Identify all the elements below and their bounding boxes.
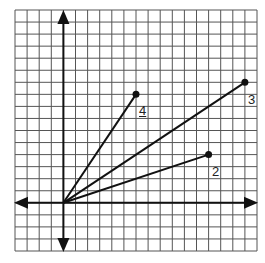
vector-endpoint-2 (205, 151, 212, 158)
vector-endpoint-4 (133, 91, 140, 98)
vector-endpoint-3 (241, 79, 248, 86)
vector-label-4: 4 (139, 103, 146, 118)
coordinate-diagram: 4 3 2 (0, 0, 265, 263)
arrow-left-icon (14, 197, 28, 209)
arrow-up-icon (57, 10, 69, 24)
vector-label-2: 2 (212, 164, 219, 179)
arrow-right-icon (244, 197, 258, 209)
arrow-down-icon (57, 238, 69, 252)
vector-label-3: 3 (248, 92, 255, 107)
grid-plot (0, 0, 265, 263)
